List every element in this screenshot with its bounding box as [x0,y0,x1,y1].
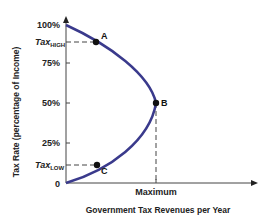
y-axis-title: Tax Rate (percentage of Income) [11,46,21,177]
y-axis-arrow-icon [63,16,69,23]
y-label-0: 0 [55,179,60,189]
laffer-curve-chart: A B C 100% 75% 50% 25% 0 TaxHIGH TaxLOW … [0,0,267,216]
y-label-25: 25% [42,138,60,148]
tax-high-sub: HIGH [50,42,65,48]
point-c-label: C [101,166,108,176]
x-axis-arrow-icon [251,180,258,186]
y-label-100: 100% [37,20,60,30]
point-a-label: A [101,31,108,41]
tax-low-sub: LOW [50,165,64,171]
tax-high-base: Tax [35,37,51,47]
point-a [93,39,99,45]
y-label-50: 50% [42,98,60,108]
point-c [94,162,100,168]
x-axis-title: Government Tax Revenues per Year [86,205,231,215]
tax-low-base: Tax [35,160,51,170]
tax-low-label: TaxLOW [35,160,65,171]
laffer-curve [66,25,156,183]
x-label-maximum: Maximum [135,187,177,197]
tax-high-label: TaxHIGH [35,37,65,48]
point-b-label: B [161,98,168,108]
point-b [153,100,159,106]
y-label-75: 75% [42,58,60,68]
